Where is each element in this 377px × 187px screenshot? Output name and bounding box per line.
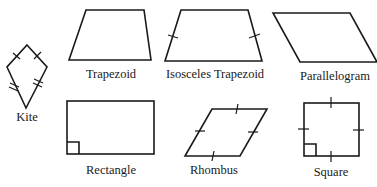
square-shape (298, 97, 364, 162)
trapezoid-label: Trapezoid (86, 67, 136, 82)
isosceles-trapezoid-label: Isosceles Trapezoid (166, 67, 264, 82)
rhombus-shape (185, 104, 267, 161)
rhombus-label: Rhombus (190, 163, 238, 178)
kite-shape (7, 45, 47, 108)
right-angle-marker (67, 142, 79, 154)
kite-label: Kite (16, 110, 38, 125)
quadrilaterals-diagram (0, 0, 377, 187)
isosceles-trapezoid-shape (165, 10, 262, 61)
right-angle-marker (304, 144, 316, 156)
trapezoid-shape (69, 10, 151, 60)
square-label: Square (314, 165, 349, 180)
rectangle-label: Rectangle (86, 163, 136, 178)
parallelogram-shape (273, 13, 377, 62)
parallelogram-label: Parallelogram (300, 69, 370, 84)
rectangle-shape (67, 101, 154, 154)
